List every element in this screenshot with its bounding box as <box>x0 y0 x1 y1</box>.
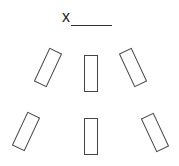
desk-lower-right <box>141 112 169 151</box>
desk-upper-center <box>84 55 98 92</box>
x-marker-label: x <box>62 9 70 25</box>
blank-line <box>71 25 112 26</box>
desk-upper-right <box>119 47 147 86</box>
desk-lower-left <box>12 111 40 150</box>
desk-lower-center <box>84 118 98 155</box>
desk-upper-left <box>34 47 62 86</box>
